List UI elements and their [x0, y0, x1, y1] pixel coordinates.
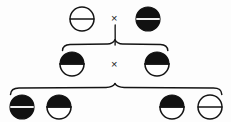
f2-offspring-1[interactable]: [10, 95, 34, 119]
cross-symbol-parental: ×: [111, 13, 117, 24]
f1-right[interactable]: [145, 52, 169, 76]
f1-left[interactable]: [60, 52, 84, 76]
parent-left[interactable]: [70, 7, 94, 31]
f2-offspring-4[interactable]: [198, 95, 222, 119]
parent-right[interactable]: [136, 7, 160, 31]
pedigree-diagram-canvas: × ×: [0, 0, 231, 122]
f2-brace: [11, 84, 222, 95]
f2-offspring-2[interactable]: [47, 95, 71, 119]
cross-symbol-f1: ×: [111, 59, 117, 70]
f2-generation-group: [10, 95, 222, 119]
f2-offspring-3[interactable]: [160, 95, 184, 119]
